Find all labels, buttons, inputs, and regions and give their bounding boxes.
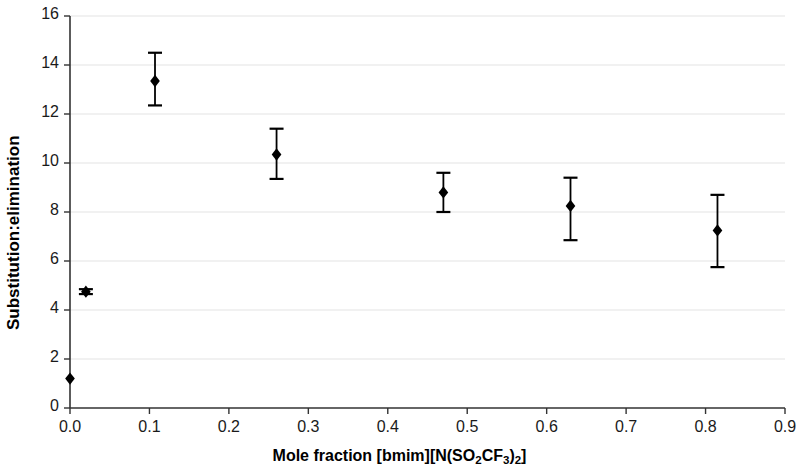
data-point-marker <box>150 75 160 87</box>
gridlines <box>70 16 785 359</box>
x-tick-label: 0.1 <box>119 418 179 436</box>
y-tick-label: 4 <box>50 299 59 317</box>
x-tick-label: 0.2 <box>199 418 259 436</box>
data-point-marker <box>81 285 91 297</box>
x-tick-label: 0.7 <box>596 418 656 436</box>
y-tick-label: 0 <box>50 397 59 415</box>
data-point-marker <box>65 372 75 384</box>
y-tick-label: 16 <box>41 5 59 23</box>
x-tick-label: 0.3 <box>278 418 338 436</box>
x-tick-label: 0.9 <box>755 418 799 436</box>
x-tick-label: 0.6 <box>517 418 577 436</box>
x-tick-label: 0.4 <box>358 418 418 436</box>
x-tick-label: 0.8 <box>676 418 736 436</box>
data-point-marker <box>713 224 723 236</box>
y-tick-label: 2 <box>50 348 59 366</box>
plot-area <box>0 0 799 470</box>
y-tick-label: 10 <box>41 152 59 170</box>
chart-figure: Substitution:elimination Mole fraction [… <box>0 0 799 470</box>
y-tick-label: 6 <box>50 250 59 268</box>
x-tick-label: 0.5 <box>437 418 497 436</box>
data-point-marker <box>272 148 282 160</box>
data-series <box>65 53 724 385</box>
y-tick-label: 14 <box>41 54 59 72</box>
axis-ticks <box>64 16 785 414</box>
y-tick-label: 12 <box>41 103 59 121</box>
y-tick-label: 8 <box>50 201 59 219</box>
data-point-marker <box>439 186 449 198</box>
x-tick-label: 0.0 <box>40 418 100 436</box>
data-point-marker <box>566 200 576 212</box>
